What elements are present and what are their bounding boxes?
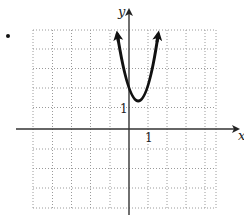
coordinate-plane: y x 1 1 — [0, 0, 244, 215]
grid-lines — [33, 30, 216, 208]
y-tick-label-1: 1 — [120, 102, 128, 116]
y-axis-label: y — [117, 4, 126, 19]
x-tick-label-1: 1 — [145, 131, 153, 145]
curve-arrow-left — [117, 34, 118, 43]
graph-figure: y x 1 1 — [0, 0, 244, 215]
curve-arrow-right — [157, 34, 158, 43]
x-axis-label: x — [238, 128, 244, 143]
parabola-curve — [117, 35, 158, 101]
